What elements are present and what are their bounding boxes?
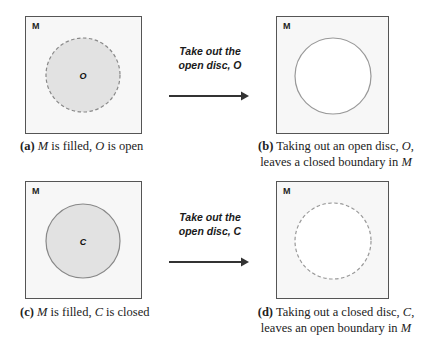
removed-disc-open-boundary: [277, 182, 390, 300]
caption-text: ,: [411, 139, 414, 153]
caption-var-m: M: [401, 321, 411, 335]
caption-b: (b) Taking out an open disc, O, leaves a…: [252, 138, 420, 170]
caption-text: is open: [104, 139, 143, 153]
caption-var-m: M: [401, 155, 411, 169]
caption-tag: (c): [20, 305, 34, 319]
caption-text: leaves an open boundary in: [261, 321, 401, 335]
caption-a: (a) M is filled, O is open: [20, 138, 143, 154]
panel-b-space-m: M: [276, 16, 389, 134]
panel-c-space-m: M C: [25, 181, 142, 299]
caption-tag: (a): [20, 139, 35, 153]
caption-c: (c) M is filled, C is closed: [20, 304, 150, 320]
action-line: Take out the: [145, 210, 275, 224]
caption-var-m: M: [38, 139, 48, 153]
caption-text: is closed: [103, 305, 150, 319]
action-label-top: Take out the open disc, O: [145, 44, 275, 72]
caption-text: leaves a closed boundary in: [260, 155, 401, 169]
caption-text: is filled,: [47, 305, 94, 319]
panel-d-space-m: M: [276, 181, 389, 299]
caption-text: Taking out an open disc,: [273, 139, 401, 153]
arrow-right-icon: [169, 90, 249, 102]
removed-disc-closed-boundary: [277, 17, 390, 135]
caption-d: (d) Taking out a closed disc, C, leaves …: [252, 304, 420, 336]
caption-var-c: C: [403, 305, 411, 319]
action-line: Take out the: [145, 44, 275, 58]
action-label-bottom: Take out the open disc, C: [145, 210, 275, 238]
action-line: open disc, C: [145, 224, 275, 238]
arrow-right-icon: [169, 256, 249, 268]
caption-text: is filled,: [48, 139, 95, 153]
caption-tag: (d): [258, 305, 273, 319]
caption-tag: (b): [258, 139, 273, 153]
action-line: open disc, O: [145, 58, 275, 72]
caption-text: ,: [411, 305, 414, 319]
caption-text: Taking out a closed disc,: [273, 305, 403, 319]
caption-var-c: C: [95, 305, 103, 319]
caption-var-m: M: [37, 305, 47, 319]
panel-a-space-m: M O: [25, 16, 142, 134]
disc-label-c: C: [80, 237, 87, 247]
caption-var-o: O: [402, 139, 411, 153]
disc-label-o: O: [79, 71, 86, 81]
